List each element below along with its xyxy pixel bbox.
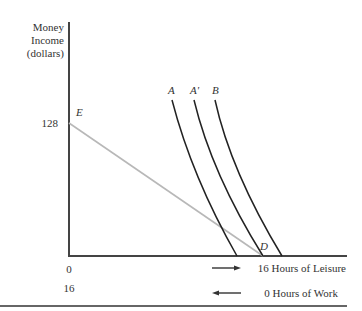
leisure-origin-label: 0 (66, 263, 72, 275)
y-axis-label-line3: (dollars) (27, 47, 65, 60)
left-arrowhead-icon (212, 291, 219, 296)
budget-line (69, 123, 263, 256)
right-arrowhead-icon (234, 266, 241, 271)
work-origin-label: 16 (64, 282, 76, 294)
y-axis-label-line1: Money (33, 21, 65, 33)
leisure-axis-label: 16 Hours of Leisure (258, 262, 346, 274)
point-e-label: E (75, 106, 83, 118)
y-axis-label-line2: Income (31, 34, 64, 46)
curve-b-label: B (212, 84, 219, 96)
diagram-canvas: Money Income (dollars) 128 E D A A' B 0 … (0, 0, 362, 311)
curve-a-label: A (167, 84, 175, 96)
work-axis-label: 0 Hours of Work (264, 287, 338, 299)
curve-a-prime-label: A' (189, 84, 200, 96)
point-d-label: D (259, 240, 268, 252)
indifference-curve-a (172, 100, 237, 256)
y-tick-128: 128 (42, 117, 59, 129)
